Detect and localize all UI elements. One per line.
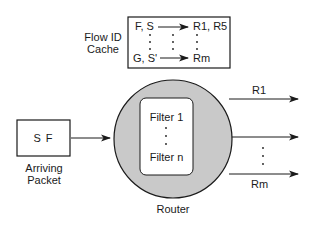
cache-label: Flow ID Cache — [80, 31, 126, 55]
cache-label-line2: Cache — [80, 43, 126, 55]
packet-label-line2: Packet — [17, 174, 71, 186]
output-first-label: R1 — [252, 84, 266, 96]
cache-row-key-first: F, S — [135, 20, 154, 32]
cache-row-value-last: Rm — [193, 52, 210, 64]
router-label: Router — [148, 203, 198, 215]
packet-content: S F — [17, 132, 70, 144]
packet-label-line1: Arriving — [17, 162, 71, 174]
cache-label-line1: Flow ID — [80, 31, 126, 43]
filter-first-label: Filter 1 — [140, 111, 193, 123]
output-ellipsis-dots — [262, 147, 264, 165]
cache-row-value-first: R1, R5 — [193, 20, 227, 32]
cache-row-key-last: G, S' — [133, 52, 157, 64]
filter-last-label: Filter n — [140, 151, 193, 163]
output-last-label: Rm — [251, 178, 268, 190]
packet-label: Arriving Packet — [17, 162, 71, 186]
